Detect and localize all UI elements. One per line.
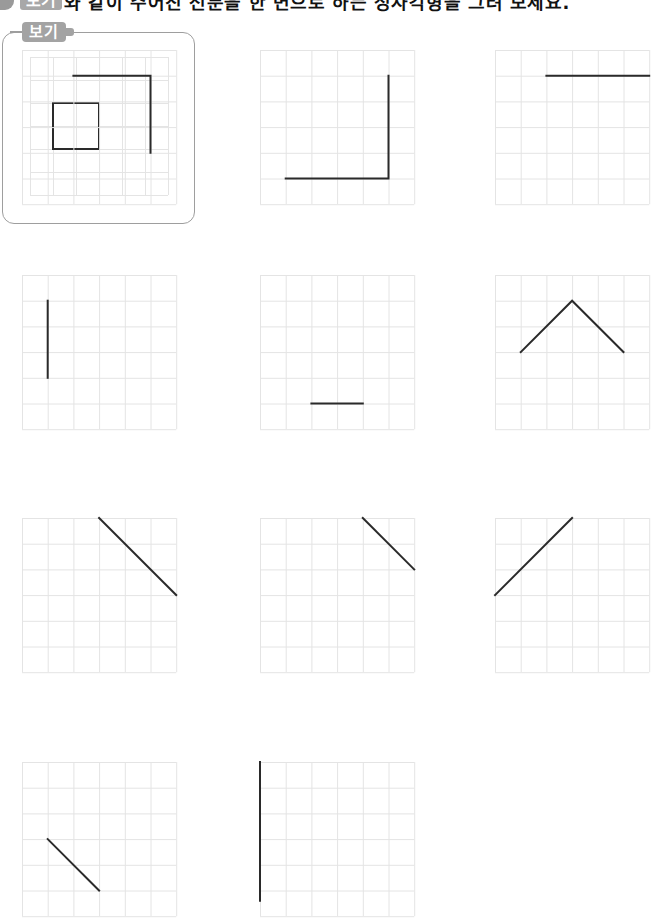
problem-grid-8[interactable] (260, 518, 418, 676)
tab-end-cap (66, 28, 74, 36)
problem-grid-2[interactable] (260, 50, 418, 208)
problem-grid-11[interactable] (260, 762, 418, 920)
problem-grid-5[interactable] (260, 275, 418, 433)
problem-grid-3[interactable] (495, 50, 653, 208)
given-segment (495, 518, 572, 595)
instruction-text: 와 같이 주어진 선분을 한 변으로 하는 정사각형을 그려 보세요. (64, 0, 570, 14)
problem-grid-9[interactable] (495, 518, 653, 676)
problem-grid-7[interactable] (22, 518, 180, 676)
given-segment (99, 518, 176, 595)
problem-grid-6[interactable] (495, 275, 653, 433)
given-segment (73, 76, 150, 153)
question-number-marker (0, 0, 14, 10)
example-label: 보기 (22, 22, 66, 42)
instruction-header: 보기 와 같이 주어진 선분을 한 변으로 하는 정사각형을 그려 보세요. (0, 0, 570, 11)
tab-connector (10, 31, 22, 33)
example-reference-badge: 보기 (20, 0, 62, 10)
problem-grid-4[interactable] (22, 275, 180, 433)
problem-grid-10[interactable] (22, 762, 180, 920)
problem-grid-1[interactable] (22, 50, 180, 208)
example-tab: 보기 (10, 22, 74, 42)
